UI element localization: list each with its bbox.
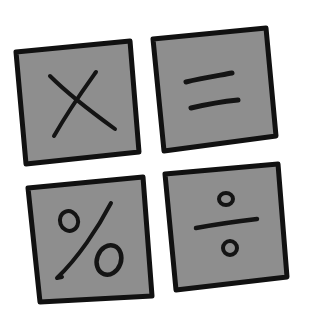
- calculator-keys-illustration: × = % ÷: [0, 0, 319, 332]
- multiply-key[interactable]: ×: [0, 0, 139, 164]
- equals-key-tile: [153, 28, 276, 151]
- divide-key-tile: [165, 164, 287, 290]
- divide-key-label: ÷: [0, 0, 13, 4]
